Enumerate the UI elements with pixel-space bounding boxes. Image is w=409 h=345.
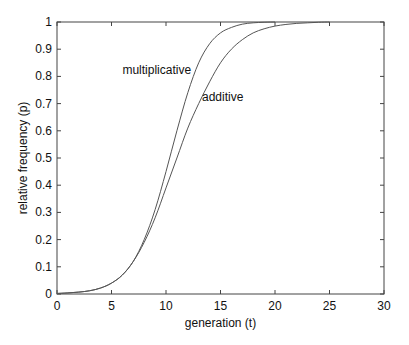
x-tick-label: 0 [54,299,61,313]
y-tick-label: 0.2 [35,233,52,247]
y-tick-label: 1 [45,15,52,29]
y-tick-label: 0.4 [35,178,52,192]
x-tick-label: 30 [377,299,391,313]
x-tick-label: 25 [323,299,337,313]
y-tick-label: 0.1 [35,260,52,274]
x-tick-label: 5 [108,299,115,313]
x-axis-label: generation (t) [185,316,256,330]
x-tick-label: 20 [268,299,282,313]
y-tick-label: 0.5 [35,151,52,165]
y-tick-label: 0.7 [35,97,52,111]
y-tick-label: 0.3 [35,205,52,219]
annotation-multiplicative: multiplicative [122,63,191,77]
y-axis-label: relative frequency (p) [16,102,30,215]
x-tick-label: 15 [214,299,228,313]
chart: 051015202530 00.10.20.30.40.50.60.70.80.… [0,0,409,345]
y-tick-label: 0.8 [35,69,52,83]
y-tick-label: 0.6 [35,124,52,138]
y-tick-label: 0 [45,287,52,301]
annotation-additive: additive [202,90,244,104]
y-tick-label: 0.9 [35,42,52,56]
x-tick-label: 10 [159,299,173,313]
